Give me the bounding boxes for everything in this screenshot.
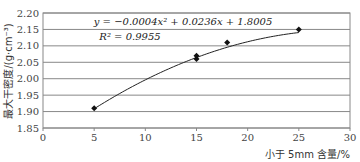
gridlines xyxy=(43,13,350,128)
y-tick-label: 2.10 xyxy=(17,40,39,51)
x-tick-label: 30 xyxy=(344,132,357,143)
x-tick-label: 20 xyxy=(241,132,254,143)
x-tick-label: 0 xyxy=(40,132,46,143)
x-tick-label: 15 xyxy=(190,132,203,143)
y-tick-label: 1.90 xyxy=(17,106,39,117)
r-squared-annotation: R² = 0.9955 xyxy=(98,31,160,42)
y-axis-ticks: 1.851.901.952.002.052.102.152.20 xyxy=(17,8,39,134)
y-tick-label: 1.85 xyxy=(17,123,39,134)
y-tick-label: 2.00 xyxy=(17,73,39,84)
data-point-diamond xyxy=(91,105,97,111)
fit-curve xyxy=(94,33,299,109)
y-tick-label: 2.20 xyxy=(17,8,39,19)
x-axis-ticks: 051015202530 xyxy=(40,128,357,143)
plot-frame xyxy=(43,13,350,128)
data-point-diamond xyxy=(296,26,302,32)
x-axis-label: 小于 5mm 含量/% xyxy=(265,148,350,160)
y-tick-label: 2.15 xyxy=(17,24,39,35)
equation-annotation: y = −0.0004x² + 0.0236x + 1.8005 xyxy=(93,16,273,27)
y-axis-label: 最大干密度/(g·cm⁻³) xyxy=(2,23,14,118)
x-tick-label: 5 xyxy=(91,132,97,143)
data-point-diamond xyxy=(224,40,230,46)
chart: 1.851.901.952.002.052.102.152.20 0510152… xyxy=(0,0,360,162)
y-tick-label: 2.05 xyxy=(17,57,39,68)
x-tick-label: 25 xyxy=(292,132,305,143)
y-tick-label: 1.95 xyxy=(17,90,39,101)
x-tick-label: 10 xyxy=(139,132,152,143)
